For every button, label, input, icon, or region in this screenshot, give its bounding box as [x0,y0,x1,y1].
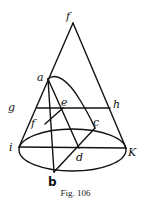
diameter-ik [19,147,126,148]
line-ad [48,79,79,148]
label-f-inner: f [30,117,37,130]
figure-caption: Fig. 106 [0,188,151,198]
label-e: e [61,96,68,109]
section-curve [48,77,95,128]
label-i: i [9,141,13,154]
label-f-apex: f [65,10,72,23]
label-b: b [48,175,57,189]
label-d: d [76,151,83,164]
line-bc [54,128,95,172]
line-ab [48,79,54,172]
label-h: h [113,98,120,111]
cone-section-diagram: f a g e h f c i d K b [0,0,151,211]
label-K: K [127,146,137,159]
label-a: a [37,71,44,84]
label-c: c [93,116,99,129]
label-g: g [8,101,15,114]
line-ef [45,108,63,124]
cone-left-edge [19,23,73,147]
base-ellipse [19,129,126,171]
